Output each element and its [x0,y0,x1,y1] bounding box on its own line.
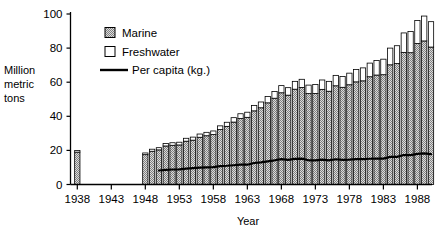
bar-segment-freshwater [265,97,270,103]
bar-segment-freshwater [286,88,291,96]
x-tick-label: 1988 [405,193,431,205]
bar-segment-marine [320,89,325,184]
bar-segment-freshwater [367,63,372,77]
bar-segment-marine [163,146,168,185]
bar-segment-freshwater [340,76,345,87]
bar-segment-marine [313,93,318,184]
bar-segment-freshwater [231,118,236,122]
bar-segment-marine [224,126,229,184]
bar-group [204,132,209,184]
x-tick-label: 1958 [201,193,227,205]
bar-group [333,75,338,184]
bar-segment-freshwater [394,46,399,64]
bar-group [422,16,427,184]
bar-group [245,112,250,184]
bar-segment-marine [428,47,433,184]
bar-segment-marine [143,155,148,185]
bar-group [265,97,270,185]
bar-segment-marine [272,98,277,184]
bar-segment-marine [149,151,154,184]
bar-group [183,138,188,184]
bar-segment-marine [374,75,379,184]
bar-group [340,76,345,184]
x-tick-label: 1983 [371,193,397,205]
bar-group [197,134,202,184]
bar-group [258,102,263,185]
y-tick-label: 0 [56,179,62,191]
bar-segment-marine [279,93,284,185]
y-tick-label: 40 [50,110,63,122]
bar-group [354,70,359,185]
bar-group [170,143,175,185]
bar-segment-freshwater [238,114,243,119]
x-tick-label: 1953 [167,193,193,205]
bar-segment-marine [177,145,182,185]
bar-segment-freshwater [217,126,222,130]
bar-segment-freshwater [401,33,406,52]
chart-canvas: 020406080100 193819431948195319581963196… [0,0,435,229]
bar-segment-marine [401,52,406,184]
bar-group [415,20,420,184]
bar-segment-marine [156,150,161,185]
y-tick-label: 60 [50,76,63,88]
bar-segment-marine [204,136,209,185]
bar-group [156,148,161,185]
bar-segment-freshwater [299,79,304,87]
bar-segment-marine [75,152,80,184]
x-tick-label: 1978 [337,193,363,205]
bar-group [428,22,433,185]
bar-segment-marine [238,119,243,185]
bar-segment-freshwater [313,85,318,94]
x-tick-label: 1973 [303,193,329,205]
bar-group [190,137,195,184]
bar-segment-freshwater [190,137,195,140]
bar-segment-marine [422,41,427,185]
legend-entry-marine: Marine [105,27,157,39]
bar-segment-freshwater [306,85,311,94]
bar-segment-marine [211,135,216,185]
bar-segment-freshwater [258,102,263,108]
bar-segment-freshwater [422,16,427,41]
bar-segment-freshwater [204,132,209,135]
bar-group [149,149,154,184]
bar-group [394,46,399,185]
y-tick-label: 100 [43,8,62,20]
bar-segment-marine [394,64,399,185]
bar-segment-freshwater [354,70,359,82]
bar-segment-freshwater [381,59,386,75]
bar-segment-freshwater [279,86,284,93]
bar-segment-marine [252,111,257,185]
bar-group [374,61,379,185]
bar-group [306,85,311,184]
bar-segment-marine [381,75,386,185]
bar-segment-marine [190,140,195,184]
bar-segment-marine [388,65,393,185]
legend-swatch-freshwater-icon [105,47,115,57]
bar-segment-marine [347,85,352,185]
bar-segment-freshwater [320,80,325,89]
bar-group [211,131,216,185]
bar-segment-marine [340,87,345,184]
x-tick-label: 1963 [235,193,261,205]
bar-group [75,151,80,185]
bar-segment-freshwater [245,112,250,117]
legend-swatch-marine-icon [105,28,115,38]
bar-segment-freshwater [272,91,277,98]
bar-segment-freshwater [149,149,154,151]
bar-segment-marine [326,91,331,184]
bar-group [320,80,325,185]
bar-segment-freshwater [211,131,216,135]
bar-group [313,85,318,185]
bar-group [401,33,406,185]
bar-group [326,81,331,184]
bar-group [360,68,365,185]
bar-segment-marine [170,145,175,184]
bar-segment-marine [306,94,311,185]
bar-segment-freshwater [415,20,420,43]
bar-segment-freshwater [333,75,338,85]
bar-group [143,153,148,185]
bar-group [238,114,243,185]
y-axis-title-line-2: tons [4,92,25,104]
bar-segment-marine [292,89,297,184]
bar-segment-marine [217,130,222,185]
